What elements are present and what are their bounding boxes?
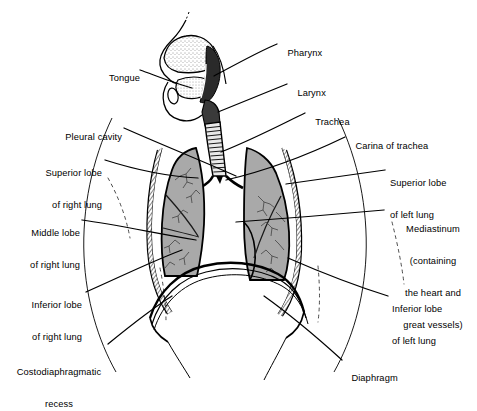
label-pleural-cavity: Pleural cavity bbox=[34, 121, 122, 142]
label-inferior-lobe-right-lung: Inferior lobe of right lung bbox=[0, 279, 82, 353]
larynx-and-trachea bbox=[201, 100, 243, 188]
leader-larynx bbox=[218, 84, 287, 112]
tick-superior-right bbox=[108, 178, 130, 238]
pleura-and-thoracic-wall bbox=[84, 118, 367, 372]
tick-inferior-left bbox=[318, 266, 320, 322]
label-larynx: Larynx bbox=[292, 77, 382, 98]
label-diaphragm: Diaphragm bbox=[346, 362, 436, 383]
label-carina-of-trachea: Carina of trachea bbox=[350, 130, 470, 151]
label-trachea: Trachea bbox=[310, 106, 400, 127]
label-pharynx: Pharynx bbox=[282, 37, 372, 58]
leader-inferior-left bbox=[288, 258, 388, 296]
leader-pharynx bbox=[214, 44, 277, 76]
label-middle-lobe-right-lung: Middle lobe of right lung bbox=[0, 207, 80, 281]
label-inferior-lobe-left-lung: Inferior lobe of left lung bbox=[392, 283, 476, 357]
leader-superior-left bbox=[286, 170, 385, 184]
right-lung bbox=[162, 148, 205, 276]
head-and-upper-airway bbox=[160, 12, 226, 121]
label-costodiaphragmatic-recess: Costodiaphragmatic recess bbox=[6, 346, 112, 411]
left-lung bbox=[244, 148, 289, 280]
label-tongue: Tongue bbox=[60, 62, 140, 83]
leader-trachea bbox=[221, 113, 305, 152]
